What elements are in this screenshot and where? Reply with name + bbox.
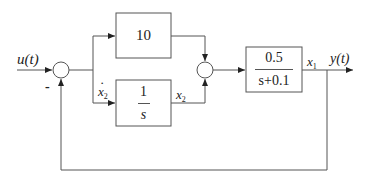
denominator: s+0.1 <box>259 73 290 89</box>
numerator: 1 <box>140 84 147 100</box>
numerator: 0.5 <box>265 50 283 66</box>
plant-output-signal-label: x1 <box>307 55 317 71</box>
fraction-bar <box>138 103 150 104</box>
gain-block-text: 10 <box>116 28 171 43</box>
dot-accent: · <box>100 76 104 89</box>
integrator-transfer-function: 1 s <box>116 80 171 126</box>
signal-subscript: 2 <box>104 92 108 101</box>
summing-junction-1 <box>53 62 69 78</box>
signal-subscript: 1 <box>313 62 317 71</box>
gain-input-line <box>93 36 115 70</box>
summing-junction-2 <box>197 62 213 78</box>
plant-transfer-function: 0.5 s+0.1 <box>246 47 302 92</box>
integrator-input-signal-label: · x2 <box>98 85 108 101</box>
signal-subscript: 2 <box>182 95 186 104</box>
output-label: y(t) <box>330 52 349 66</box>
integrator-output-signal-label: x2 <box>176 88 186 104</box>
fraction-bar <box>255 69 293 70</box>
denominator: s <box>141 107 146 123</box>
input-label: u(t) <box>17 52 39 67</box>
sum1-minus-sign: - <box>45 80 50 94</box>
gain-output-line <box>171 36 205 61</box>
